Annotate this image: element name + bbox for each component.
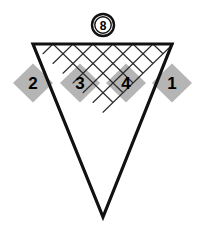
badge-group: 8 [92, 14, 114, 36]
cell-label-1: 1 [167, 74, 176, 93]
cell-label-4: 4 [121, 74, 131, 93]
cell-label-2: 2 [28, 74, 37, 93]
cell-label-3: 3 [75, 74, 84, 93]
diamond-lattice-figure: 8 2341 [0, 0, 206, 231]
figure-canvas: 8 2341 [0, 0, 206, 231]
badge-number: 8 [100, 19, 107, 33]
